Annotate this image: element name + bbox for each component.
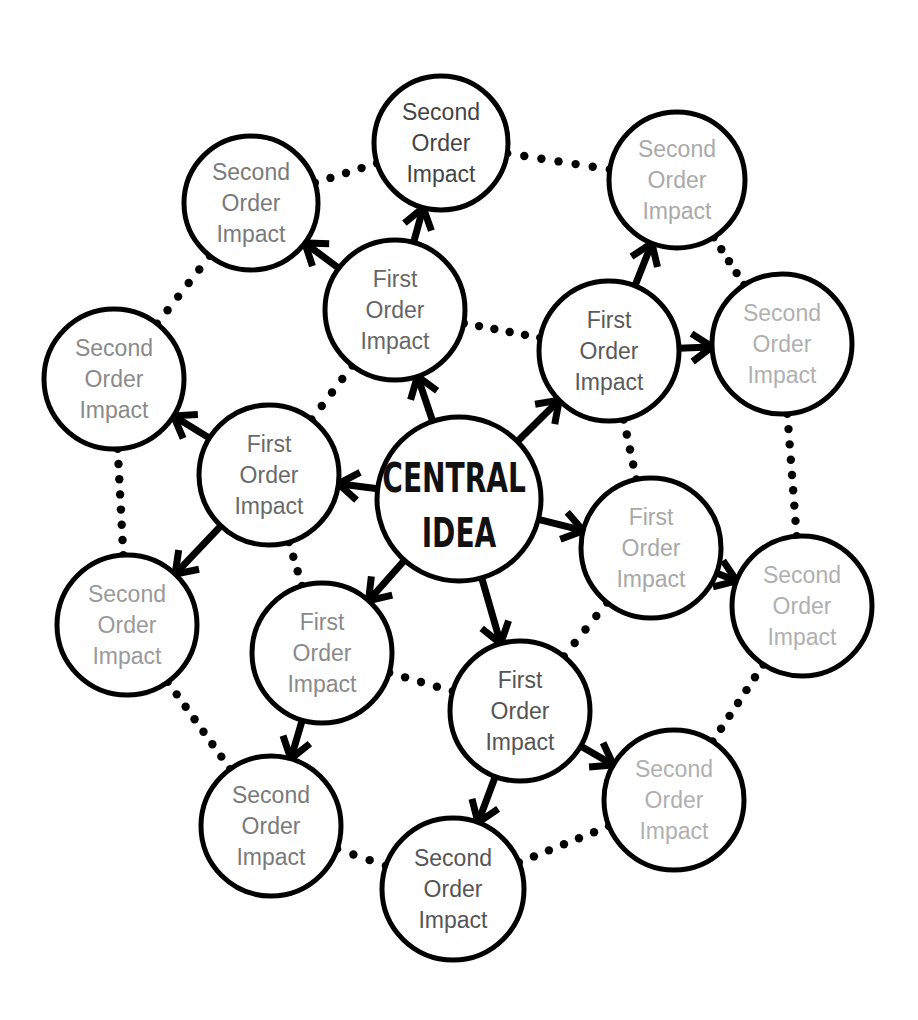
central-idea-label-line: CENTRAL (382, 453, 526, 501)
node-label-line: Order (85, 366, 144, 392)
link-dot (328, 388, 336, 396)
link-dot (732, 269, 740, 277)
node-label-line: First (498, 667, 543, 693)
link-dot (172, 690, 180, 698)
node-label-line: Order (222, 190, 281, 216)
dotted-link (153, 252, 214, 328)
second-order-impact-node[interactable]: SecondOrderImpact (44, 309, 184, 449)
dotted-link (460, 319, 545, 342)
node-label-line: Impact (767, 624, 837, 650)
mind-map-diagram: FirstOrderImpactFirstOrderImpactFirstOrd… (0, 0, 918, 1020)
link-dot (116, 490, 124, 498)
second-order-impact-node[interactable]: SecondOrderImpact (604, 730, 744, 870)
node-label-line: Order (98, 612, 157, 638)
node-label-line: Order (242, 813, 301, 839)
node-label-line: First (629, 504, 674, 530)
node-label-line: Order (645, 787, 704, 813)
arrow-connector (538, 512, 583, 539)
link-dot (490, 325, 498, 333)
dotted-link (285, 538, 306, 590)
node-label-line: Order (622, 535, 681, 561)
arrow-connector (338, 472, 377, 500)
first-order-impact-node[interactable]: FirstOrderImpact (199, 405, 339, 545)
link-dot (521, 331, 529, 339)
central-idea-label-line: IDEA (422, 509, 497, 557)
link-dot (289, 552, 297, 560)
node-label-line: First (587, 307, 632, 333)
second-order-impact-node[interactable]: SecondOrderImpact (374, 76, 508, 210)
dotted-link (709, 233, 748, 289)
link-dot (349, 850, 357, 858)
arrow-shaft (176, 526, 220, 573)
dotted-link (311, 159, 382, 187)
second-order-impact-node[interactable]: SecondOrderImpact (201, 756, 341, 896)
link-dot (118, 536, 126, 544)
node-label-line: Impact (216, 221, 286, 247)
node-label-line: Second (232, 782, 310, 808)
node-label-line: Order (293, 640, 352, 666)
link-dot (554, 157, 562, 165)
link-dot (115, 475, 123, 483)
arrow-connector (411, 376, 438, 421)
link-dot (575, 834, 583, 842)
second-order-impact-node[interactable]: SecondOrderImpact (382, 818, 524, 960)
link-dot (788, 471, 796, 479)
dotted-link (515, 822, 614, 867)
node-label-line: Order (491, 698, 550, 724)
link-dot (318, 402, 326, 410)
arrow-connector (174, 414, 210, 438)
first-order-impact-node[interactable]: FirstOrderImpact (325, 240, 465, 380)
node-label-line: Impact (485, 729, 555, 755)
node-label-line: Order (773, 593, 832, 619)
second-order-impact-node[interactable]: SecondOrderImpact (609, 112, 745, 248)
second-order-impact-node[interactable]: SecondOrderImpact (732, 536, 872, 676)
second-order-impact-node[interactable]: SecondOrderImpact (57, 555, 197, 695)
link-dot (185, 279, 193, 287)
link-dot (199, 728, 207, 736)
link-dot (338, 375, 346, 383)
arrow-connector (482, 578, 509, 644)
link-dot (401, 673, 409, 681)
link-dot (629, 460, 637, 468)
arrow-connector (404, 208, 431, 243)
second-order-impact-node[interactable]: SecondOrderImpact (712, 274, 852, 414)
link-dot (342, 169, 350, 177)
central-idea-node[interactable]: CENTRAL IDEA (377, 417, 541, 581)
link-dot (417, 678, 425, 686)
link-dot (742, 686, 750, 694)
first-order-impact-node[interactable]: FirstOrderImpact (539, 281, 679, 421)
link-dot (734, 699, 742, 707)
node-label: SecondOrderImpact (232, 782, 310, 870)
node-label-line: Impact (747, 362, 817, 388)
dotted-link (503, 149, 614, 173)
first-order-impact-node[interactable]: FirstOrderImpact (450, 641, 590, 781)
node-label-line: First (300, 609, 345, 635)
link-dot (293, 567, 301, 575)
link-dot (626, 445, 634, 453)
node-label-line: Order (424, 876, 483, 902)
link-dot (433, 682, 441, 690)
node-label-line: Second (88, 581, 166, 607)
first-order-impact-node[interactable]: FirstOrderImpact (581, 478, 721, 618)
second-order-impact-node[interactable]: SecondOrderImpact (184, 136, 318, 270)
node-label-line: Second (414, 845, 492, 871)
node-label: SecondOrderImpact (402, 99, 480, 187)
link-dot (118, 521, 126, 529)
dotted-link (307, 361, 356, 423)
link-dot (791, 517, 799, 525)
dotted-link (619, 415, 640, 483)
node-label: SecondOrderImpact (635, 756, 713, 844)
link-dot (717, 245, 725, 253)
arrow-shaft (517, 402, 557, 442)
node-label-line: First (373, 266, 418, 292)
node-label-line: Order (648, 167, 707, 193)
first-order-impact-node[interactable]: FirstOrderImpact (252, 583, 392, 723)
arrow-connector (517, 400, 559, 441)
node-label: SecondOrderImpact (88, 581, 166, 669)
link-dot (357, 164, 365, 172)
link-dot (725, 257, 733, 265)
link-dot (545, 846, 553, 854)
link-dot (560, 840, 568, 848)
dotted-link (333, 845, 390, 870)
node-label-line: Order (580, 338, 639, 364)
